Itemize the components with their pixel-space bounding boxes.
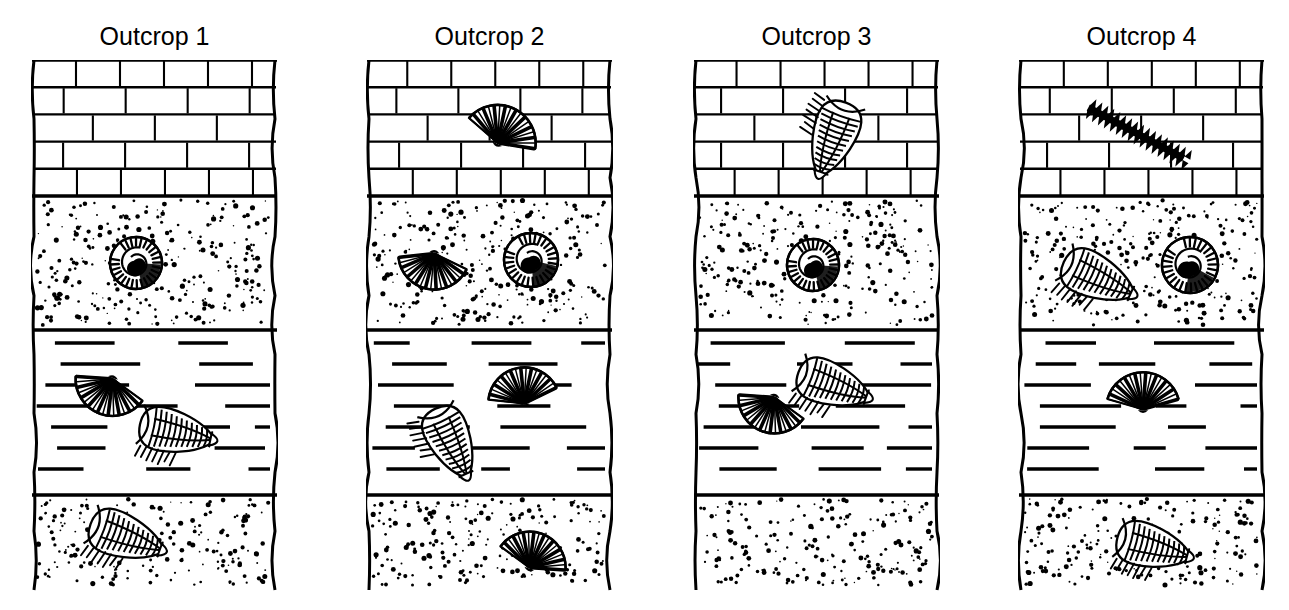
outcrop-column-3: Outcrop 3 <box>693 0 940 610</box>
outcrop-label-3: Outcrop 3 <box>693 22 940 51</box>
outcrop-graphic-4 <box>1018 60 1265 600</box>
outcrop-column-4: Outcrop 4 <box>1018 0 1265 610</box>
outcrop-label-4: Outcrop 4 <box>1018 22 1265 51</box>
outcrop-label-1: Outcrop 1 <box>31 22 278 51</box>
outcrop-label-2: Outcrop 2 <box>366 22 613 51</box>
outcrop-graphic-2 <box>366 60 613 600</box>
outcrop-graphic-3 <box>693 60 940 600</box>
stratigraphic-correlation-figure: Outcrop 1Outcrop 2Outcrop 3Outcrop 4 <box>0 0 1289 610</box>
fossil-ammonite-icon <box>504 233 558 287</box>
outcrop-column-1: Outcrop 1 <box>31 0 278 610</box>
outcrop-graphic-1 <box>31 60 278 600</box>
outcrop-column-2: Outcrop 2 <box>366 0 613 610</box>
